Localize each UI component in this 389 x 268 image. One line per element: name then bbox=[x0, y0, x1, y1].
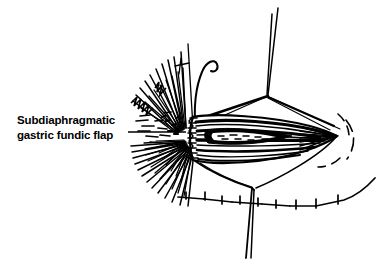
suture-stitch-marks bbox=[186, 192, 338, 209]
suture-strands-descending bbox=[246, 188, 254, 258]
retractor-suture-strands bbox=[267, 8, 278, 95]
label-subdiaphragmatic-gastric-fundic-flap: Subdiaphragmatic gastric fundic flap bbox=[17, 113, 135, 143]
surgical-illustration-figure: Subdiaphragmatic gastric fundic flap bbox=[0, 0, 389, 268]
